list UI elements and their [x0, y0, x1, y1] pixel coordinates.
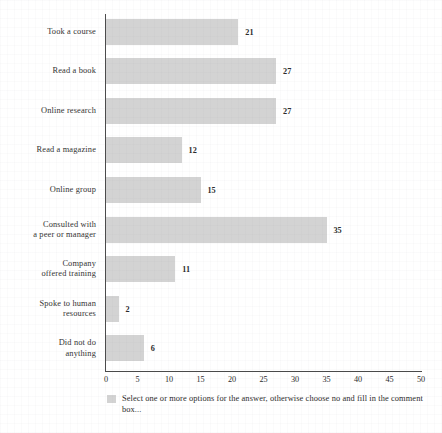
bar [106, 256, 175, 282]
bar-row: Spoke to humanresources2 [0, 291, 442, 326]
category-label-line: Online group [4, 185, 96, 195]
bar [106, 177, 201, 203]
category-label-line: Online research [4, 106, 96, 116]
bar-row: Online research27 [0, 93, 442, 128]
x-axis-tick-label: 45 [385, 375, 393, 384]
x-axis-tick-label: 15 [196, 375, 204, 384]
bar [106, 137, 182, 163]
category-label: Companyoffered training [4, 259, 96, 279]
bar [106, 217, 327, 243]
legend-swatch-icon [107, 395, 116, 403]
category-label-line: Read a magazine [4, 145, 96, 155]
bar-value-label: 21 [245, 27, 253, 36]
category-label-line: offered training [4, 269, 96, 279]
category-label-line: Took a course [4, 26, 96, 36]
x-axis-tick-label: 30 [291, 375, 299, 384]
category-label-line: Spoke to human [4, 298, 96, 308]
plot-area: Took a course21Read a book27Online resea… [0, 0, 442, 433]
legend-caption: Select one or more options for the answe… [122, 393, 429, 415]
x-axis-tick-label: 25 [259, 375, 267, 384]
bar-value-label: 2 [126, 304, 130, 313]
category-label: Online group [4, 185, 96, 195]
bar-value-label: 27 [283, 67, 291, 76]
legend: Select one or more options for the answe… [107, 393, 429, 415]
bar-row: Online group15 [0, 172, 442, 207]
category-label: Read a book [4, 66, 96, 76]
bar-row: Read a magazine12 [0, 133, 442, 168]
category-label: Consulted witha peer or manager [4, 219, 96, 239]
bar-value-label: 15 [208, 185, 216, 194]
bar-row: Consulted witha peer or manager35 [0, 212, 442, 247]
bar-value-label: 27 [283, 106, 291, 115]
category-label: Took a course [4, 26, 96, 36]
bar-row: Took a course21 [0, 14, 442, 49]
bar-row: Read a book27 [0, 54, 442, 89]
bar-row: Did not doanything6 [0, 331, 442, 366]
category-label: Did not doanything [4, 338, 96, 358]
x-axis-line [105, 371, 422, 372]
category-label-line: anything [4, 348, 96, 358]
bar-value-label: 35 [334, 225, 342, 234]
bar-value-label: 12 [189, 146, 197, 155]
category-label-line: resources [4, 309, 96, 319]
bar [106, 19, 238, 45]
category-label-line: Did not do [4, 338, 96, 348]
bar [106, 296, 119, 322]
category-label: Spoke to humanresources [4, 298, 96, 318]
bar-value-label: 11 [182, 265, 190, 274]
bar-row: Companyoffered training11 [0, 252, 442, 287]
x-axis-tick-label: 0 [104, 375, 108, 384]
x-axis-tick-label: 10 [165, 375, 173, 384]
category-label: Read a magazine [4, 145, 96, 155]
x-axis-tick-label: 20 [228, 375, 236, 384]
bar-chart-figure: Took a course21Read a book27Online resea… [0, 0, 442, 433]
x-axis-tick-label: 5 [135, 375, 139, 384]
x-axis-tick-label: 35 [322, 375, 330, 384]
category-label: Online research [4, 106, 96, 116]
bar [106, 58, 276, 84]
category-label-line: Read a book [4, 66, 96, 76]
category-label-line: Consulted with [4, 219, 96, 229]
x-axis-tick-label: 50 [417, 375, 425, 384]
x-axis-tick-label: 40 [354, 375, 362, 384]
bar-value-label: 6 [151, 344, 155, 353]
category-label-line: a peer or manager [4, 230, 96, 240]
bar [106, 98, 276, 124]
bar [106, 335, 144, 361]
category-label-line: Company [4, 259, 96, 269]
